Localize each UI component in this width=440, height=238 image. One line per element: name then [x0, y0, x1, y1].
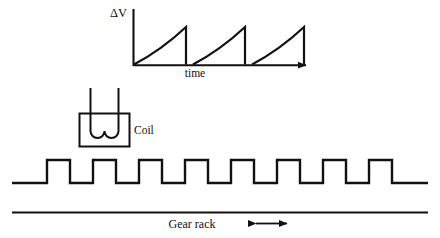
gear-rack-label: Gear rack	[169, 217, 216, 231]
x-axis-label: time	[185, 67, 205, 79]
gear-rack-group: Gear rack	[12, 160, 428, 231]
voltage-pulse-3	[252, 27, 304, 65]
y-axis-label: ΔV	[110, 6, 127, 20]
coil-winding	[91, 126, 119, 138]
coil-box	[80, 114, 130, 147]
voltage-pulse-1	[134, 27, 186, 65]
coil-group: Coil	[80, 88, 154, 147]
voltage-pulse-2	[193, 27, 245, 65]
sensor-diagram-svg: ΔV time Coil Gear rack	[0, 0, 440, 238]
coil-label: Coil	[134, 124, 154, 136]
diagram-canvas: ΔV time Coil Gear rack	[0, 0, 440, 238]
voltage-plot-group: ΔV time	[110, 6, 306, 79]
gear-rack-teeth	[12, 160, 428, 183]
